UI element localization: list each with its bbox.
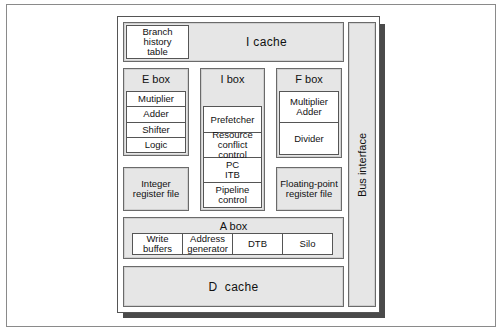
a-box-unit-silo: Silo <box>283 234 332 254</box>
a-box-unit-write-buffers: Write buffers <box>133 234 183 254</box>
i-box-block: I box Prefetcher Resource conflict contr… <box>200 68 265 211</box>
a-box-unit-dtb: DTB <box>233 234 283 254</box>
floating-point-register-file-block: Floating-point register file <box>276 167 342 211</box>
f-box-block: F box Multiplier Adder Divider <box>276 68 342 158</box>
integer-register-file-label: Integer register file <box>124 179 188 199</box>
bus-interface-label: Bus interface <box>356 132 368 196</box>
e-box-unit-logic: Logic <box>127 138 185 152</box>
f-box-units: Multiplier Adder Divider <box>279 91 339 155</box>
branch-history-table: Branch history table <box>126 25 189 59</box>
i-box-units: Prefetcher Resource conflict control PC … <box>203 106 262 208</box>
a-box-units: Write buffers Address generator DTB Silo <box>132 233 333 255</box>
f-box-unit-multiplier-adder: Multiplier Adder <box>280 92 338 123</box>
cpu-chip-diagram: Branch history table I cache Bus interfa… <box>117 16 380 313</box>
i-box-unit-pipeline-control: Pipeline control <box>204 183 261 207</box>
a-box-block: A box Write buffers Address generator DT… <box>123 217 344 259</box>
e-box-unit-multiplier: Mutiplier <box>127 92 185 107</box>
d-cache-label: D cache <box>209 280 259 294</box>
f-box-unit-divider: Divider <box>280 123 338 154</box>
e-box-unit-adder: Adder <box>127 107 185 122</box>
a-box-title: A box <box>124 220 343 232</box>
branch-history-table-label: Branch history table <box>142 27 172 57</box>
i-box-unit-pc-itb: PC ITB <box>204 158 261 183</box>
integer-register-file-block: Integer register file <box>123 167 189 211</box>
e-box-unit-shifter: Shifter <box>127 123 185 138</box>
floating-point-register-file-label: Floating-point register file <box>277 179 341 199</box>
e-box-units: Mutiplier Adder Shifter Logic <box>126 91 186 153</box>
f-box-title: F box <box>277 73 341 85</box>
d-cache-block: D cache <box>123 266 344 307</box>
e-box-block: E box Mutiplier Adder Shifter Logic <box>123 68 189 156</box>
i-box-unit-resource-conflict-control: Resource conflict control <box>204 133 261 158</box>
a-box-unit-address-generator: Address generator <box>183 234 233 254</box>
bus-interface-block: Bus interface <box>348 22 376 307</box>
i-cache-label: I cache <box>246 35 287 49</box>
i-cache-block: Branch history table I cache <box>123 22 344 62</box>
e-box-title: E box <box>124 73 188 85</box>
i-box-title: I box <box>201 73 264 85</box>
